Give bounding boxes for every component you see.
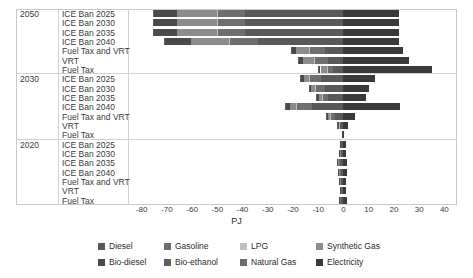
bar-row	[129, 150, 457, 157]
bar-segment	[309, 47, 310, 54]
bar-segment	[191, 38, 229, 45]
x-axis-title: PJ	[0, 216, 473, 226]
scenario-label: ICE Ban 2040	[62, 103, 128, 112]
scenario-label: ICE Ban 2035	[62, 29, 128, 38]
bar-segment	[245, 19, 343, 26]
bar-segment	[316, 94, 317, 101]
scenario-label: Fuel Tax and VRT	[62, 178, 128, 187]
bar-segment	[311, 85, 315, 92]
bar-segment	[328, 94, 343, 101]
legend-swatch-icon	[240, 243, 247, 250]
legend-label: Synthetic Gas	[327, 242, 380, 251]
bar-segment	[337, 159, 338, 166]
bar-row	[129, 85, 457, 92]
bar-segment	[343, 75, 375, 82]
bar-segment	[245, 10, 343, 17]
scenario-label: VRT	[62, 122, 128, 131]
x-axis-tick-label: -50	[212, 206, 224, 214]
legend-swatch-icon	[240, 259, 247, 266]
bar-segment	[328, 57, 343, 64]
legend-item[interactable]: Natural Gas	[240, 258, 316, 267]
x-axis-tick-label: -40	[237, 206, 249, 214]
legend-swatch-icon	[316, 259, 323, 266]
bar-segment	[343, 197, 346, 204]
bar-segment	[325, 47, 344, 54]
scenario-label: ICE Ban 2030	[62, 85, 128, 94]
bar-segment	[321, 66, 327, 73]
x-axis-tick-label: -30	[262, 206, 274, 214]
legend-swatch-icon	[98, 243, 105, 250]
scenario-label: ICE Ban 2040	[62, 38, 128, 47]
bar-segment	[296, 47, 309, 54]
bar-row	[129, 29, 457, 36]
x-axis-tick-label: 0	[341, 206, 345, 214]
scenario-label: VRT	[62, 187, 128, 196]
bar-row	[129, 19, 457, 26]
bar-segment	[322, 94, 323, 101]
legend-item[interactable]: Diesel	[98, 242, 164, 251]
bar-row	[129, 94, 457, 101]
bar-segment	[340, 187, 341, 194]
bar-segment	[343, 141, 346, 148]
stacked-bar-chart: 205020302020 ICE Ban 2025ICE Ban 2030ICE…	[0, 0, 473, 278]
bar-segment	[330, 113, 335, 120]
bar-segment	[343, 66, 431, 73]
legend-item[interactable]: Synthetic Gas	[316, 242, 398, 251]
bar-segment	[291, 47, 296, 54]
bar-segment	[217, 10, 218, 17]
bar-segment	[290, 103, 296, 110]
bar-row	[129, 197, 457, 204]
bar-segment	[314, 57, 315, 64]
x-axis-tick-label: 40	[440, 206, 449, 214]
x-axis-tick-label: 30	[415, 206, 424, 214]
bar-segment	[300, 75, 304, 82]
bar-segment	[285, 103, 290, 110]
legend-item[interactable]: Electricity	[316, 258, 398, 267]
legend-swatch-icon	[98, 259, 105, 266]
bar-segment	[330, 113, 331, 120]
x-axis-tick-label: -20	[287, 206, 299, 214]
bar-row	[129, 57, 457, 64]
legend-item[interactable]: Bio-ethanol	[164, 258, 240, 267]
bar-row	[129, 66, 457, 73]
bar-segment	[153, 10, 154, 17]
scenario-label: ICE Ban 2035	[62, 159, 128, 168]
bar-segment	[337, 122, 338, 129]
bar-segment	[339, 178, 340, 185]
bar-segment	[343, 150, 346, 157]
bar-segment	[177, 10, 216, 17]
legend-item[interactable]: Gasoline	[164, 242, 240, 251]
bar-segment	[153, 19, 177, 26]
bar-segment	[314, 57, 328, 64]
bar-segment	[309, 47, 324, 54]
legend-swatch-icon	[316, 243, 323, 250]
legend-label: Diesel	[109, 242, 133, 251]
scenario-label: ICE Ban 2025	[62, 75, 128, 84]
x-axis-tick-label: -10	[312, 206, 324, 214]
scenario-label: ICE Ban 2030	[62, 150, 128, 159]
legend-item[interactable]: Bio-diesel	[98, 258, 164, 267]
bar-row	[129, 187, 457, 194]
bar-segment	[343, 57, 409, 64]
bar-segment	[343, 85, 368, 92]
bar-segment	[343, 187, 346, 194]
bar-segment	[296, 103, 297, 110]
bar-segment	[318, 66, 319, 73]
bar-segment	[285, 103, 286, 110]
bar-segment	[327, 66, 333, 73]
bar-segment	[164, 38, 165, 45]
scenario-label: ICE Ban 2035	[62, 94, 128, 103]
year-column-divider	[58, 9, 59, 205]
bar-segment	[291, 47, 292, 54]
bar-segment	[327, 66, 328, 73]
bar-segment	[339, 122, 340, 129]
bar-segment	[326, 113, 327, 120]
bar-segment	[343, 38, 399, 45]
bar-segment	[177, 19, 216, 26]
bar-row	[129, 178, 457, 185]
bar-segment	[338, 169, 339, 176]
bar-segment	[300, 75, 301, 82]
x-axis-tick-label: -70	[161, 206, 173, 214]
legend-label: Gasoline	[175, 242, 209, 251]
legend-item[interactable]: LPG	[240, 242, 316, 251]
